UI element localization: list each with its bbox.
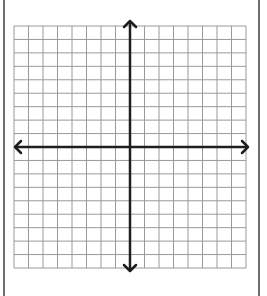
axes <box>15 21 248 271</box>
coordinate-plane <box>0 0 267 296</box>
